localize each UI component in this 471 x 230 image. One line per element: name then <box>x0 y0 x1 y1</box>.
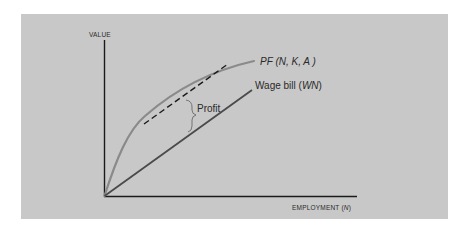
wage-bill-label: Wage bill (WN) <box>255 80 322 91</box>
wage-bill-line <box>105 90 253 196</box>
x-axis-label: EMPLOYMENT (N) <box>292 204 351 212</box>
pf-label-args: (N, K, A ) <box>273 56 316 67</box>
x-axis-label-close: ) <box>349 204 351 212</box>
wage-label-prefix: Wage bill ( <box>255 80 303 91</box>
chart-svg: VALUE EMPLOYMENT (N) PF (N, K, A ) Wage … <box>0 0 471 230</box>
pf-label-prefix: PF <box>260 56 274 67</box>
wage-label-var: WN <box>302 80 319 91</box>
y-axis-label: VALUE <box>89 31 111 38</box>
profit-brace <box>186 100 196 132</box>
pf-curve-label: PF (N, K, A ) <box>260 56 316 67</box>
wage-label-close: ) <box>319 80 322 91</box>
profit-label: Profit <box>197 103 221 114</box>
x-axis-label-text: EMPLOYMENT ( <box>292 204 344 212</box>
production-function-curve <box>105 61 255 196</box>
tangent-dashed-line <box>144 64 228 124</box>
